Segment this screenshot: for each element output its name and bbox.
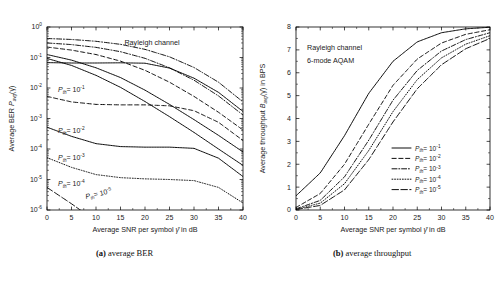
x-tick-label: 5 xyxy=(70,214,74,221)
curve-label: Pth= 10-4 xyxy=(58,179,85,189)
x-tick-label: 40 xyxy=(486,214,494,221)
legend-label: Pth= 10-4 xyxy=(415,175,441,184)
y-tick-label: 10-4 xyxy=(30,144,42,152)
average-throughput-chart: 0510152025303540012345678Rayleigh channe… xyxy=(252,0,503,250)
x-tick-label: 35 xyxy=(462,214,470,221)
y-axis-title: Average BER Pavg(γ̄) xyxy=(7,85,17,151)
legend-label: Pth= 10-2 xyxy=(415,154,441,163)
y-tick-label: 10-5 xyxy=(30,175,42,183)
x-tick-label: 35 xyxy=(215,214,223,221)
y-tick-label: 10-6 xyxy=(30,205,42,213)
y-tick-label: 4 xyxy=(287,115,291,122)
y-tick-label: 10-2 xyxy=(30,83,42,91)
subcaption-a-text: average BER xyxy=(106,248,153,258)
y-tick-label: 2 xyxy=(287,161,291,168)
x-tick-label: 30 xyxy=(190,214,198,221)
x-tick-label: 5 xyxy=(318,214,322,221)
x-tick-label: 20 xyxy=(389,214,397,221)
y-tick-label: 100 xyxy=(32,22,43,30)
x-tick-label: 40 xyxy=(239,214,247,221)
subcaption-b-text: average throughput xyxy=(343,248,411,258)
subcaption-a: (a) average BER xyxy=(96,248,153,258)
legend-label: Pth= 10-5 xyxy=(415,185,441,194)
subcaption-row: (a) average BER (b) average throughput xyxy=(0,248,503,278)
curve-label: Pth= 10-3 xyxy=(58,153,85,163)
legend: Pth= 10-1Pth= 10-2Pth= 10-3Pth= 10-4Pth=… xyxy=(392,144,441,195)
x-tick-label: 25 xyxy=(413,214,421,221)
x-axis-title: Average SNR per symbol γ̄ in dB xyxy=(93,225,198,234)
x-tick-label: 25 xyxy=(166,214,174,221)
x-axis-title: Average SNR per symbol γ̄ in dB xyxy=(341,225,446,234)
ber-curve xyxy=(47,58,243,165)
x-tick-label: 10 xyxy=(92,214,100,221)
panel-average-throughput: 0510152025303540012345678Rayleigh channe… xyxy=(252,0,503,250)
x-tick-label: 0 xyxy=(294,214,298,221)
y-tick-label: 8 xyxy=(287,23,291,30)
y-tick-label: 3 xyxy=(287,138,291,145)
y-axis-title: Average throughput Bavg(γ̄) in BPS xyxy=(258,64,268,174)
legend-label: Pth= 10-1 xyxy=(415,144,441,153)
x-tick-label: 30 xyxy=(438,214,446,221)
y-tick-label: 1 xyxy=(287,184,291,191)
x-tick-label: 10 xyxy=(341,214,349,221)
y-tick-label: 6 xyxy=(287,69,291,76)
figure-container: 051015202530354010010-110-210-310-410-51… xyxy=(0,0,503,286)
curve-label: Pth= 10-1 xyxy=(58,85,85,95)
panel-average-ber: 051015202530354010010-110-210-310-410-51… xyxy=(0,0,252,250)
y-tick-label: 0 xyxy=(287,206,291,213)
subcaption-b-tag: (b) xyxy=(333,248,343,258)
annotation-rayleigh-channel: Rayleigh channel xyxy=(124,38,180,47)
y-tick-label: 10-3 xyxy=(30,114,42,122)
curve-label: Pth= 10-2 xyxy=(58,126,85,136)
subcaption-b: (b) average throughput xyxy=(333,248,411,258)
y-tick-label: 7 xyxy=(287,46,291,53)
annotation-rayleigh-channel: Rayleigh channel xyxy=(307,43,363,52)
average-ber-chart: 051015202530354010010-110-210-310-410-51… xyxy=(0,0,252,250)
curve-label: Pth= 10-5 xyxy=(84,186,112,201)
x-tick-label: 15 xyxy=(117,214,125,221)
x-tick-label: 20 xyxy=(141,214,149,221)
x-tick-label: 0 xyxy=(45,214,49,221)
subcaption-a-tag: (a) xyxy=(96,248,106,258)
y-tick-label: 10-1 xyxy=(30,53,42,61)
x-tick-label: 15 xyxy=(365,214,373,221)
y-tick-label: 5 xyxy=(287,92,291,99)
legend-label: Pth= 10-3 xyxy=(415,165,441,174)
annotation-6-mode-aqam: 6-mode AQAM xyxy=(307,56,354,65)
